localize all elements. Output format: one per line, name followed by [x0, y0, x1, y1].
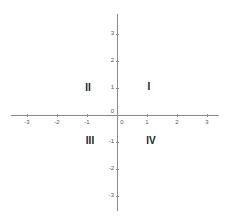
x-tick — [147, 114, 148, 117]
quadrant-label-iii: III — [80, 135, 100, 146]
y-tick — [116, 61, 119, 62]
x-tick-label: -3 — [21, 119, 33, 125]
y-tick-label: 3 — [104, 30, 114, 36]
y-tick-label: 1 — [104, 84, 114, 90]
y-tick — [116, 142, 119, 143]
x-tick — [87, 114, 88, 117]
y-tick — [116, 196, 119, 197]
x-tick-label: 1 — [141, 119, 153, 125]
x-tick — [207, 114, 208, 117]
y-tick-label: -2 — [104, 165, 114, 171]
y-tick-label: -3 — [104, 192, 114, 198]
quadrant-label-ii: II — [78, 82, 98, 93]
y-tick — [116, 88, 119, 89]
y-tick-label: 0 — [104, 108, 114, 114]
x-tick-label: 0 — [116, 119, 128, 125]
y-tick — [116, 34, 119, 35]
quadrant-label-i: I — [139, 81, 159, 92]
coordinate-plane: -3 -2 -1 0 1 2 3 3 2 1 0 -1 -2 -3 I II I… — [0, 0, 230, 222]
quadrant-label-iv: IV — [141, 135, 161, 146]
x-axis — [11, 115, 219, 116]
x-tick-label: 2 — [171, 119, 183, 125]
y-axis — [117, 14, 118, 211]
x-tick — [27, 114, 28, 117]
y-tick — [116, 169, 119, 170]
x-tick-label: -1 — [81, 119, 93, 125]
y-tick-label: -1 — [104, 138, 114, 144]
x-tick-label: 3 — [201, 119, 213, 125]
x-tick — [177, 114, 178, 117]
x-tick — [57, 114, 58, 117]
y-tick-label: 2 — [104, 57, 114, 63]
x-tick-label: -2 — [51, 119, 63, 125]
